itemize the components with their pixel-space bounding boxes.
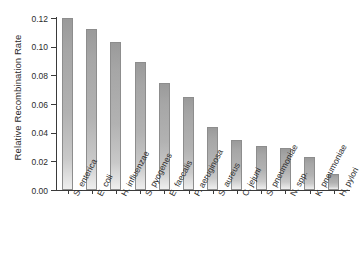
bar <box>110 42 121 190</box>
x-axis-tick <box>140 190 141 194</box>
y-axis-title-text: Relative Recombination Rate <box>13 35 24 161</box>
x-axis-tick <box>213 190 214 194</box>
y-axis-tick-label: 0.08 <box>31 71 48 81</box>
x-axis-tick <box>310 190 311 194</box>
x-axis-tick <box>68 190 69 194</box>
x-axis-tick <box>92 190 93 194</box>
y-axis-tick-label: 0.12 <box>31 14 48 24</box>
y-axis-tick-label: 0.06 <box>31 100 48 110</box>
x-axis-tick <box>116 190 117 194</box>
x-axis-tick <box>237 190 238 194</box>
y-axis-tick: 0.00 <box>51 190 56 191</box>
x-axis-tick <box>164 190 165 194</box>
y-axis-tick-label: 0.10 <box>31 42 48 52</box>
y-axis-tick-label: 0.00 <box>31 186 48 196</box>
x-axis-tick <box>189 190 190 194</box>
plot-area <box>56 18 349 190</box>
y-axis-title: Relative Recombination Rate <box>9 0 27 195</box>
y-axis-tick-label: 0.02 <box>31 157 48 167</box>
bar <box>62 18 73 190</box>
y-axis-tick-label: 0.04 <box>31 128 48 138</box>
x-axis-tick <box>334 190 335 194</box>
x-axis-tick <box>285 190 286 194</box>
x-axis-tick <box>261 190 262 194</box>
